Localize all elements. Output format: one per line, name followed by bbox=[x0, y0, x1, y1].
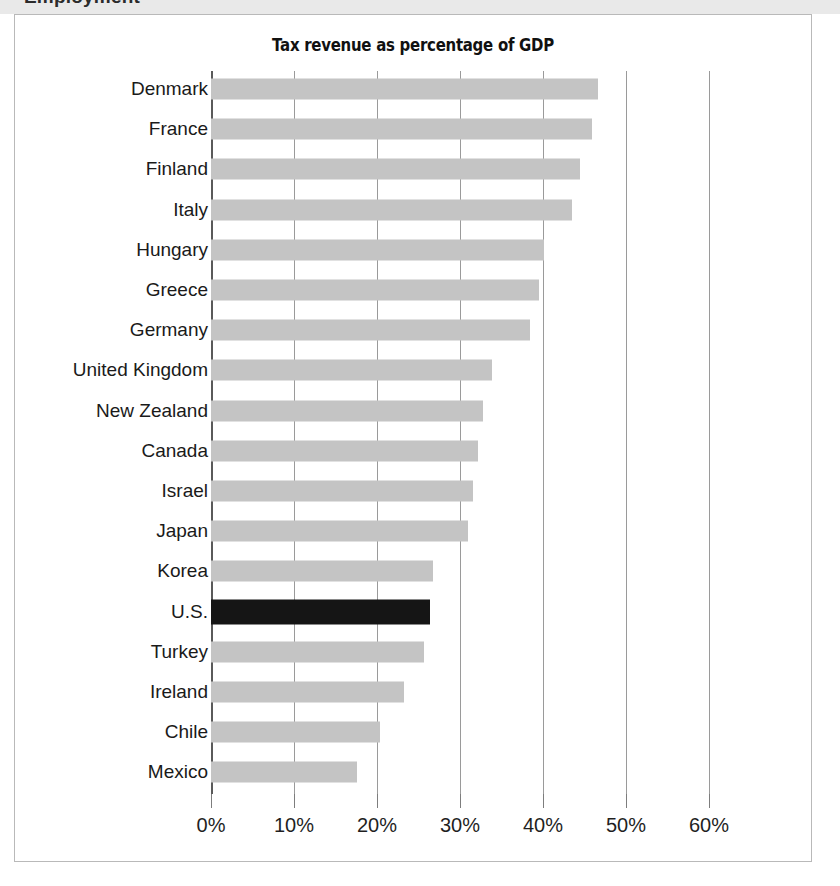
bar-row: Italy bbox=[15, 190, 813, 230]
x-tick-label: 20% bbox=[357, 814, 397, 837]
bar-row: Canada bbox=[15, 431, 813, 471]
bar-row: Israel bbox=[15, 471, 813, 511]
x-tick-mark bbox=[626, 794, 627, 808]
bar-category-label: Japan bbox=[156, 520, 208, 542]
bar-category-label: Mexico bbox=[148, 761, 208, 783]
bar-row: Hungary bbox=[15, 230, 813, 270]
bar-category-label: U.S. bbox=[171, 601, 208, 623]
x-tick-mark bbox=[377, 794, 378, 808]
x-tick-mark bbox=[543, 794, 544, 808]
bar-row: France bbox=[15, 109, 813, 149]
bar-category-label: Chile bbox=[165, 721, 208, 743]
bar bbox=[211, 199, 572, 220]
bar bbox=[211, 561, 433, 582]
bar-row: Japan bbox=[15, 511, 813, 551]
bar-category-label: New Zealand bbox=[96, 400, 208, 422]
bar-row: Germany bbox=[15, 310, 813, 350]
bar-category-label: Turkey bbox=[151, 641, 208, 663]
bar-row: Greece bbox=[15, 270, 813, 310]
bar bbox=[211, 682, 404, 703]
bar-category-label: France bbox=[149, 118, 208, 140]
bar bbox=[211, 320, 530, 341]
x-tick-mark bbox=[294, 794, 295, 808]
bar bbox=[211, 400, 483, 421]
chart-title: Tax revenue as percentage of GDP bbox=[63, 35, 763, 55]
plot-area: DenmarkFranceFinlandItalyHungaryGreeceGe… bbox=[15, 67, 813, 812]
bar bbox=[211, 119, 592, 140]
bar-row: U.S. bbox=[15, 592, 813, 632]
x-tick-label: 30% bbox=[440, 814, 480, 837]
bar bbox=[211, 481, 473, 502]
bar bbox=[211, 79, 598, 100]
x-tick-label: 60% bbox=[689, 814, 729, 837]
bar bbox=[211, 239, 544, 260]
x-axis: 0%10%20%30%40%50%60% bbox=[15, 812, 813, 862]
cut-off-header-text: Employment bbox=[24, 0, 140, 8]
bar-row: Korea bbox=[15, 551, 813, 591]
figure-frame: Tax revenue as percentage of GDP Denmark… bbox=[14, 14, 812, 862]
x-tick-label: 40% bbox=[523, 814, 563, 837]
bar-row: Mexico bbox=[15, 752, 813, 792]
bar-category-label: Canada bbox=[141, 440, 208, 462]
bar-category-label: Korea bbox=[157, 560, 208, 582]
bar-category-label: Italy bbox=[173, 199, 208, 221]
bar bbox=[211, 521, 468, 542]
bar-category-label: Hungary bbox=[136, 239, 208, 261]
bar bbox=[211, 360, 492, 381]
bar-row: Finland bbox=[15, 149, 813, 189]
scanned-page-top-strip: Employment bbox=[0, 0, 840, 14]
bar-category-label: United Kingdom bbox=[73, 359, 208, 381]
bar-category-label: Germany bbox=[130, 319, 208, 341]
x-tick-label: 50% bbox=[606, 814, 646, 837]
bar-category-label: Denmark bbox=[131, 78, 208, 100]
x-tick-mark bbox=[211, 794, 212, 808]
bar-category-label: Ireland bbox=[150, 681, 208, 703]
x-tick-mark bbox=[460, 794, 461, 808]
bar bbox=[211, 762, 357, 783]
x-tick-mark bbox=[709, 794, 710, 808]
bar-category-label: Israel bbox=[162, 480, 208, 502]
bar bbox=[211, 722, 380, 743]
x-tick-label: 10% bbox=[274, 814, 314, 837]
bar-highlighted bbox=[211, 599, 430, 624]
bar bbox=[211, 280, 539, 301]
bar-row: Denmark bbox=[15, 69, 813, 109]
bar-category-label: Greece bbox=[146, 279, 208, 301]
bar-row: Ireland bbox=[15, 672, 813, 712]
bar-row: Chile bbox=[15, 712, 813, 752]
bar-category-label: Finland bbox=[146, 158, 208, 180]
x-tick-label: 0% bbox=[197, 814, 226, 837]
bar-row: United Kingdom bbox=[15, 350, 813, 390]
bar bbox=[211, 641, 424, 662]
bar-row: Turkey bbox=[15, 632, 813, 672]
bar bbox=[211, 440, 478, 461]
bar-row: New Zealand bbox=[15, 391, 813, 431]
bar bbox=[211, 159, 580, 180]
bars-group: DenmarkFranceFinlandItalyHungaryGreeceGe… bbox=[15, 67, 813, 812]
